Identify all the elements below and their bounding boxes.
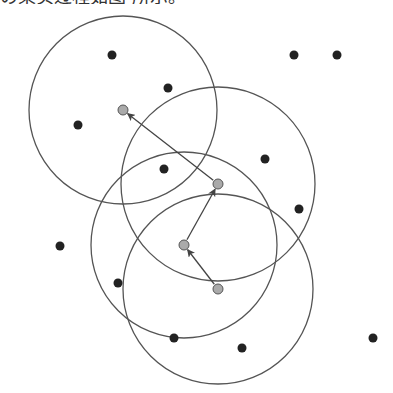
window-center (179, 240, 189, 250)
data-point (369, 334, 378, 343)
window-centers (118, 105, 223, 294)
data-point (160, 165, 169, 174)
shift-arrow (187, 189, 215, 240)
window-center (118, 105, 128, 115)
data-point (56, 242, 65, 251)
data-point (295, 205, 304, 214)
data-point (238, 344, 247, 353)
window-circles (29, 16, 315, 384)
data-point (170, 334, 179, 343)
window-center (213, 284, 223, 294)
window-center (213, 179, 223, 189)
data-point (333, 51, 342, 60)
mean-shift-diagram (0, 0, 393, 393)
data-point (108, 51, 117, 60)
data-point (261, 155, 270, 164)
shift-arrows (128, 114, 215, 285)
data-point (290, 51, 299, 60)
data-point (74, 121, 83, 130)
data-point (164, 84, 173, 93)
shift-arrow (128, 114, 214, 181)
data-point (114, 279, 123, 288)
